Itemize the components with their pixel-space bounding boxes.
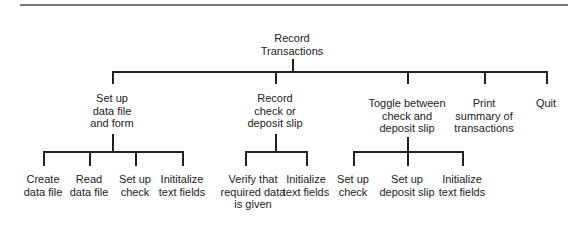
node-label-line: deposit slip [379, 186, 434, 199]
connector-l2 [43, 151, 45, 166]
node-record-check: Record check or deposit slip [247, 92, 302, 130]
connector-l2 [462, 151, 464, 166]
node-verify-data: Verify that required data is given [221, 173, 286, 211]
node-label-line: check and [368, 110, 445, 123]
node-label-line: text fields [283, 186, 329, 199]
node-label-line: is given [221, 198, 286, 211]
bar-l2-group2 [353, 151, 463, 153]
node-toggle: Toggle between check and deposit slip [368, 97, 445, 135]
node-record-transactions: Record Transactions [261, 32, 324, 57]
connector-l2-group1 [275, 134, 277, 151]
connector-l2 [182, 151, 184, 166]
connector-l1-4 [546, 71, 548, 84]
node-set-up-check: Set up check [119, 173, 151, 198]
node-label-line: data file [70, 186, 109, 199]
node-label-line: Set up [379, 173, 434, 186]
bar-l2-group0 [43, 151, 183, 153]
node-set-up-data-file: Set up data file and form [90, 92, 133, 130]
node-label-line: required data [221, 186, 286, 199]
node-initialize-text-fields: Inititalize text fields [159, 173, 205, 198]
connector-root [292, 59, 294, 71]
node-label-line: Toggle between [368, 97, 445, 110]
node-label-line: data file [90, 105, 133, 118]
node-label-line: data file [24, 186, 63, 199]
connector-l2 [89, 151, 91, 166]
node-quit: Quit [536, 97, 556, 110]
bar-level1 [112, 71, 547, 73]
node-label-line: and form [90, 117, 133, 130]
node-label-line: Verify that [221, 173, 286, 186]
node-label-line: Inititalize [159, 173, 205, 186]
top-rule [20, 4, 568, 6]
connector-l1-1 [275, 71, 277, 84]
connector-l2-group0 [112, 134, 114, 151]
node-label-line: deposit slip [368, 122, 445, 135]
node-label-line: Quit [536, 97, 556, 110]
node-label-line: transactions [454, 122, 513, 135]
node-label-line: text fields [159, 186, 205, 199]
node-label-line: Read [70, 173, 109, 186]
node-create-data-file: Create data file [24, 173, 63, 198]
bar-l2-group1 [245, 151, 307, 153]
node-label-line: Create [24, 173, 63, 186]
node-set-up-check: Set up check [337, 173, 369, 198]
node-initialize-text-fields: Initialize text fields [283, 173, 329, 198]
node-set-up-deposit-slip: Set up deposit slip [379, 173, 434, 198]
node-label-line: Print [454, 97, 513, 110]
node-read-data-file: Read data file [70, 173, 109, 198]
node-label-line: Record [261, 32, 324, 45]
connector-l2 [135, 151, 137, 166]
node-label-line: Record [247, 92, 302, 105]
node-label-line: summary of [454, 110, 513, 123]
node-label-line: Transactions [261, 45, 324, 58]
node-label-line: check [337, 186, 369, 199]
node-label-line: Initialize [439, 173, 485, 186]
node-label-line: Initialize [283, 173, 329, 186]
connector-l1-0 [112, 71, 114, 84]
connector-l2 [245, 151, 247, 166]
node-label-line: check [119, 186, 151, 199]
node-label-line: check or [247, 105, 302, 118]
node-label-line: deposit slip [247, 117, 302, 130]
node-initialize-text-fields: Initialize text fields [439, 173, 485, 198]
node-label-line: Set up [90, 92, 133, 105]
connector-l1-3 [484, 71, 486, 84]
node-label-line: text fields [439, 186, 485, 199]
connector-l1-2 [407, 71, 409, 84]
node-label-line: Set up [119, 173, 151, 186]
node-print-summary: Print summary of transactions [454, 97, 513, 135]
connector-l2 [353, 151, 355, 166]
node-label-line: Set up [337, 173, 369, 186]
connector-l2 [306, 151, 308, 166]
